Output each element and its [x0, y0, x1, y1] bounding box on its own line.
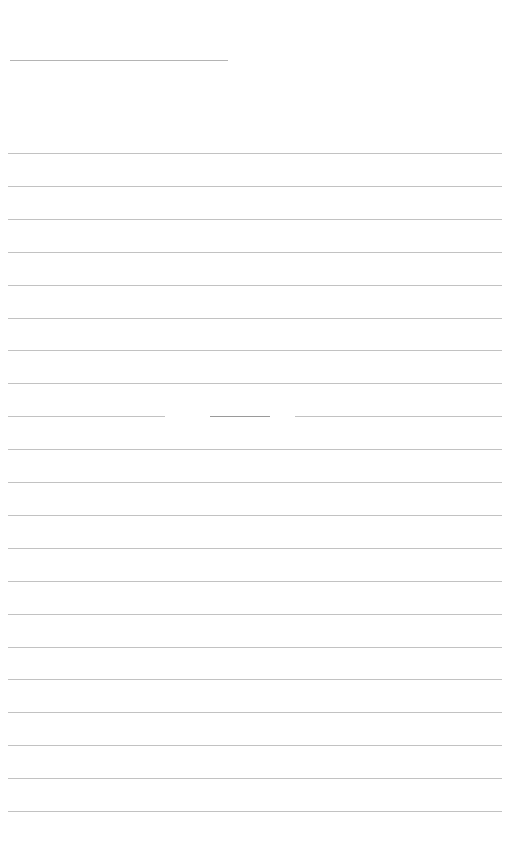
ruled-line — [8, 383, 502, 384]
ruled-line — [8, 449, 502, 450]
ruled-line — [8, 285, 502, 286]
ruled-line-segment — [8, 416, 165, 417]
header-name-line — [10, 60, 228, 61]
ruled-line — [8, 581, 502, 582]
ruled-line — [8, 153, 502, 154]
ruled-line — [8, 318, 502, 319]
ruled-line-segment — [295, 416, 502, 417]
ruled-line-segment — [210, 416, 270, 417]
ruled-line — [8, 252, 502, 253]
ruled-line — [8, 482, 502, 483]
ruled-line — [8, 647, 502, 648]
ruled-line — [8, 350, 502, 351]
ruled-line — [8, 778, 502, 779]
ruled-line — [8, 614, 502, 615]
ruled-line — [8, 186, 502, 187]
ruled-line — [8, 219, 502, 220]
ruled-line — [8, 679, 502, 680]
ruled-line — [8, 548, 502, 549]
lined-paper-page — [0, 0, 521, 859]
ruled-line — [8, 745, 502, 746]
ruled-line — [8, 515, 502, 516]
ruled-line — [8, 712, 502, 713]
ruled-line — [8, 811, 502, 812]
